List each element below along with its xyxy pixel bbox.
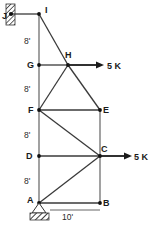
load-label-H: 5 K (107, 61, 122, 71)
member-H-E (68, 65, 100, 110)
truss-diagram: I J G H F E D C A B 8' 8' 8' 8' 10' 5 K … (0, 0, 152, 235)
joint-label-A: A (27, 195, 34, 205)
dimension-label-A-B: 10' (62, 212, 73, 222)
dimension-label-G-F: 8' (24, 84, 31, 94)
joint-label-D: D (26, 151, 33, 161)
load-arrow-at-H (68, 62, 104, 69)
joint-label-B: B (103, 198, 110, 208)
joint-I (37, 12, 41, 16)
joint-label-C: C (101, 144, 108, 154)
pin-support-A (30, 203, 49, 220)
joint-label-I: I (45, 5, 48, 15)
joint-label-H: H (65, 50, 72, 60)
dimension-label-F-D: 8' (24, 130, 31, 140)
joint-label-E: E (103, 105, 109, 115)
joint-label-G: G (27, 60, 34, 70)
joint-label-J: J (2, 11, 7, 21)
joint-F (37, 108, 41, 112)
member-H-F (39, 65, 68, 110)
truss-diagram-canvas: I J G H F E D C A B 8' 8' 8' 8' 10' 5 K … (0, 0, 152, 235)
load-arrowhead-C (124, 153, 132, 160)
load-arrowhead-H (96, 62, 104, 69)
joint-B (98, 201, 102, 205)
joint-G (37, 63, 41, 67)
support-triangle-A (32, 203, 46, 213)
support-hatching-A (30, 213, 49, 220)
joint-label-F: F (28, 105, 34, 115)
joint-J (9, 12, 13, 16)
member-I-H (39, 14, 68, 65)
load-label-C: 5 K (134, 152, 149, 162)
joint-D (37, 154, 41, 158)
truss-joints (9, 12, 102, 205)
member-A-C (39, 156, 100, 203)
dimension-label-I-G: 8' (24, 36, 31, 46)
member-F-C (39, 110, 100, 156)
joint-E (98, 108, 102, 112)
dimension-label-D-A: 8' (24, 176, 31, 186)
